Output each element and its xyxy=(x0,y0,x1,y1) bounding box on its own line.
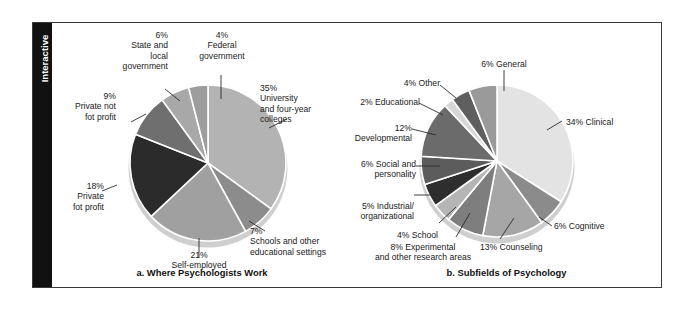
interactive-tab-label: Interactive xyxy=(39,19,50,99)
callout-general: 6% General xyxy=(462,59,546,69)
callout-school: 4% School xyxy=(372,230,438,240)
callout-other: 4% Other xyxy=(378,78,440,88)
callout-state-local-government: 6% State and local government xyxy=(100,30,168,72)
callout-university: 35% University and four-year colleges xyxy=(260,83,352,125)
figure-frame: Interactive 35% University and four-year… xyxy=(32,22,662,288)
chart-panel-subfields-of-psychology: 34% Clinical 6% Cognitive 13% Counseling… xyxy=(352,23,661,287)
chart-panel-where-psychologists-work: 35% University and four-year colleges 7%… xyxy=(52,23,352,287)
callout-federal-government: 4% Federal government xyxy=(182,30,262,61)
callout-schools: 7% Schools and other educational setting… xyxy=(250,226,350,257)
callout-private-not-for-profit: 9% Private not fot profit xyxy=(44,91,116,122)
callout-cognitive: 6% Cognitive xyxy=(554,221,642,231)
caption-chart-a: a. Where Psychologists Work xyxy=(52,267,352,278)
callout-private-for-profit: 18% Private fot profit xyxy=(42,181,104,212)
callout-developmental: 12% Developmental xyxy=(342,123,412,144)
interactive-tab[interactable]: Interactive xyxy=(33,23,52,287)
callout-experimental: 8% Experimental and other research areas xyxy=(362,242,484,263)
caption-chart-b: b. Subfields of Psychology xyxy=(352,267,661,278)
callout-industrial-organizational: 5% Industrial/ organizational xyxy=(346,201,414,222)
callout-educational: 2% Educational xyxy=(348,97,420,107)
callout-social-personality: 6% Social and personality xyxy=(346,159,416,180)
callout-clinical: 34% Clinical xyxy=(566,117,652,127)
callout-counseling: 13% Counseling xyxy=(480,242,566,252)
